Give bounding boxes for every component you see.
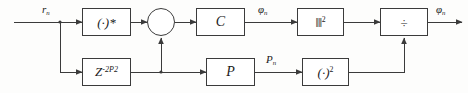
block-correlator[interactable]: C xyxy=(196,8,245,36)
signal-phi-mid-sub: n xyxy=(264,9,267,16)
junction-dot-tap xyxy=(159,70,162,73)
signal-power-sub: n xyxy=(273,59,276,66)
signal-label-power: Pn xyxy=(266,54,276,65)
block-power-estimator-label: P xyxy=(226,65,235,79)
signal-label-input: rn xyxy=(42,4,50,15)
block-diagram: (·)* C ‖‖2 ÷ Z-2P2 P (·)2 rn φn φn Pn xyxy=(0,0,468,93)
delay-exponent: -2P2 xyxy=(102,65,118,74)
wire-to-delay xyxy=(60,22,82,72)
junction-dot-input xyxy=(58,20,61,23)
square-base: (·) xyxy=(318,65,330,80)
block-divide-label: ÷ xyxy=(400,16,407,29)
block-magnitude-squared[interactable]: ‖‖2 xyxy=(297,8,344,36)
block-complex-conjugate-label: (·)* xyxy=(97,16,115,29)
signal-input-sub: n xyxy=(46,9,49,16)
block-correlator-label: C xyxy=(216,15,225,29)
block-divide[interactable]: ÷ xyxy=(380,8,428,36)
multiplier-node[interactable] xyxy=(147,8,175,36)
block-power-estimator[interactable]: P xyxy=(206,58,255,86)
block-square[interactable]: (·)2 xyxy=(302,58,349,86)
signal-label-phi-mid: φn xyxy=(258,4,268,15)
block-magnitude-squared-label: ‖‖2 xyxy=(315,16,325,29)
signal-output-sub: n xyxy=(442,9,445,16)
norm-exponent: 2 xyxy=(322,15,326,24)
signal-label-output: φn xyxy=(436,4,446,15)
signal-power-base: P xyxy=(266,53,273,65)
block-delay-label: Z-2P2 xyxy=(95,65,118,78)
wire-square-to-div xyxy=(349,38,404,72)
block-complex-conjugate[interactable]: (·)* xyxy=(82,8,131,36)
square-exponent: 2 xyxy=(330,65,334,74)
block-delay[interactable]: Z-2P2 xyxy=(82,58,131,86)
block-square-label: (·)2 xyxy=(318,66,334,79)
norm-bars: ‖‖ xyxy=(315,15,321,30)
